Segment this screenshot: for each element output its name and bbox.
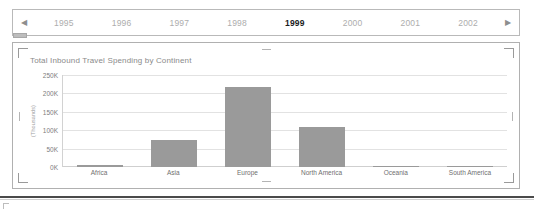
chart-title: Total Inbound Travel Spending by Contine… [30,56,192,65]
bar-series [63,75,507,167]
x-tick-europe: Europe [210,169,284,176]
selection-handle-top-middle[interactable] [262,49,271,50]
y-tick-100k: 100K [43,127,58,134]
y-axis-tick-labels: 250K 200K 150K 100K 50K 0K [38,75,60,167]
bar-slot-africa[interactable] [63,75,137,167]
x-tick-asia: Asia [136,169,210,176]
year-track[interactable]: 1995 1996 1997 1998 1999 2000 2001 2002 [35,10,497,35]
bar-africa[interactable] [77,165,123,167]
selection-handle-top-left[interactable] [18,48,28,58]
year-item-2001[interactable]: 2001 [382,18,440,28]
x-tick-north-america: North America [285,169,359,176]
year-item-1995[interactable]: 1995 [35,18,93,28]
year-item-1998[interactable]: 1998 [208,18,266,28]
selection-handle-right-middle[interactable] [512,112,513,121]
plot-canvas [62,75,507,167]
year-item-1996[interactable]: 1996 [93,18,151,28]
bar-slot-south-america[interactable] [433,75,507,167]
bar-slot-oceania[interactable] [359,75,433,167]
year-item-1999[interactable]: 1999 [266,18,324,28]
bar-slot-north-america[interactable] [285,75,359,167]
selection-handle-left-middle[interactable] [19,112,20,121]
selection-handle-bottom-middle[interactable] [262,181,271,182]
bar-oceania[interactable] [373,166,419,167]
triangle-right-icon[interactable]: ▶ [497,10,519,35]
bar-asia[interactable] [151,140,197,167]
x-tick-africa: Africa [62,169,136,176]
selection-handle-top-right[interactable] [504,48,514,58]
bar-south-america[interactable] [447,166,493,167]
y-tick-250k: 250K [43,72,58,79]
bar-slot-europe[interactable] [211,75,285,167]
y-tick-0k: 0K [50,164,58,171]
bar-europe[interactable] [225,87,271,167]
sheet-bottom-rule [0,196,534,198]
y-tick-150k: 150K [43,108,58,115]
horizontal-scrollbar-thumb[interactable] [13,33,27,38]
y-axis-title-text: (Thousands) [30,105,36,137]
y-tick-200k: 200K [43,90,58,97]
triangle-left-icon[interactable]: ◀ [13,10,35,35]
x-tick-south-america: South America [433,169,507,176]
year-item-2000[interactable]: 2000 [324,18,382,28]
chart-container[interactable]: Total Inbound Travel Spending by Contine… [12,42,520,189]
y-tick-50k: 50K [46,145,58,152]
x-axis-tick-labels: Africa Asia Europe North America Oceania… [62,169,507,176]
sheet-corner-mark [3,203,9,209]
year-timeline-slicer[interactable]: ◀ 1995 1996 1997 1998 1999 2000 2001 200… [12,9,520,36]
bar-north-america[interactable] [299,127,345,167]
plot-area: (Thousands) 250K 200K 150K 100K 50K 0K [28,75,507,178]
year-item-1997[interactable]: 1997 [151,18,209,28]
bar-slot-asia[interactable] [137,75,211,167]
x-tick-oceania: Oceania [359,169,433,176]
selection-handle-bottom-left[interactable] [18,173,28,183]
y-axis-title: (Thousands) [28,75,38,167]
year-item-2002[interactable]: 2002 [439,18,497,28]
sheet-bottom-rule-2 [0,199,534,200]
